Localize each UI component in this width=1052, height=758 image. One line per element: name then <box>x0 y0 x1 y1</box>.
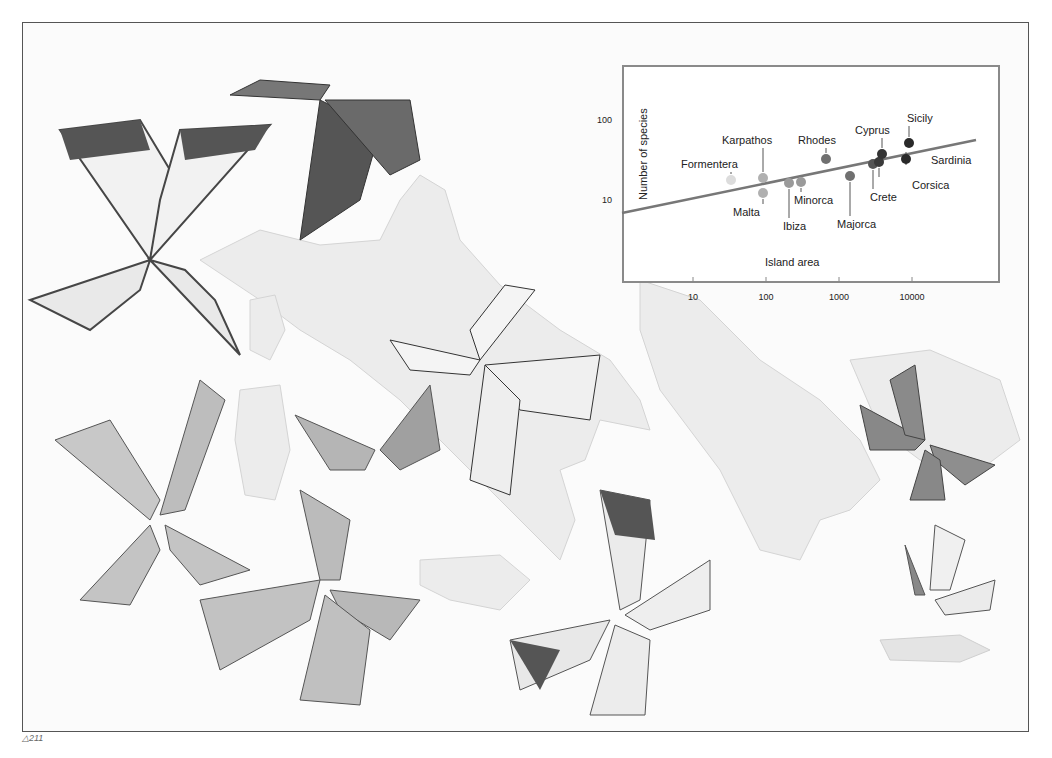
x-tick-label: 1000 <box>829 292 849 302</box>
svg-text:Majorca: Majorca <box>837 218 877 230</box>
y-axis-ticks: 10100 <box>597 115 612 205</box>
svg-text:Ibiza: Ibiza <box>783 220 807 232</box>
svg-text:Malta: Malta <box>733 206 761 218</box>
x-axis-ticks: 10100100010000 <box>688 277 925 302</box>
svg-text:Corsica: Corsica <box>912 179 950 191</box>
x-tick-label: 10 <box>688 292 698 302</box>
butterfly-brimstone <box>200 490 420 705</box>
svg-text:Crete: Crete <box>870 191 897 203</box>
svg-text:Sardinia: Sardinia <box>931 154 972 166</box>
svg-text:Minorca: Minorca <box>794 194 834 206</box>
x-axis-label: Island area <box>765 256 820 268</box>
butterfly-fritillary <box>55 380 250 605</box>
y-tick-label: 10 <box>602 195 612 205</box>
species-area-chart: 10100 10100100010000 Number of species I… <box>590 60 1010 310</box>
data-point-cyprus: Cyprus <box>855 124 890 159</box>
x-tick-label: 10000 <box>899 292 924 302</box>
svg-text:Rhodes: Rhodes <box>798 134 836 146</box>
svg-text:Cyprus: Cyprus <box>855 124 890 136</box>
data-point-rhodes: Rhodes <box>798 134 836 164</box>
data-point-malta: Malta <box>733 188 768 218</box>
svg-text:Sicily: Sicily <box>907 112 933 124</box>
x-tick-label: 100 <box>758 292 773 302</box>
butterfly-swallowtail <box>30 120 270 355</box>
data-point-minorca: Minorca <box>794 177 834 206</box>
y-axis-label: Number of species <box>637 108 649 200</box>
svg-text:Formentera: Formentera <box>681 158 739 170</box>
svg-text:Karpathos: Karpathos <box>722 134 773 146</box>
butterfly-blue-small <box>905 525 995 615</box>
figure-label: △211 <box>22 733 43 743</box>
y-tick-label: 100 <box>597 115 612 125</box>
data-point-formentera: Formentera <box>681 158 739 185</box>
data-point-sicily: Sicily <box>904 112 933 148</box>
